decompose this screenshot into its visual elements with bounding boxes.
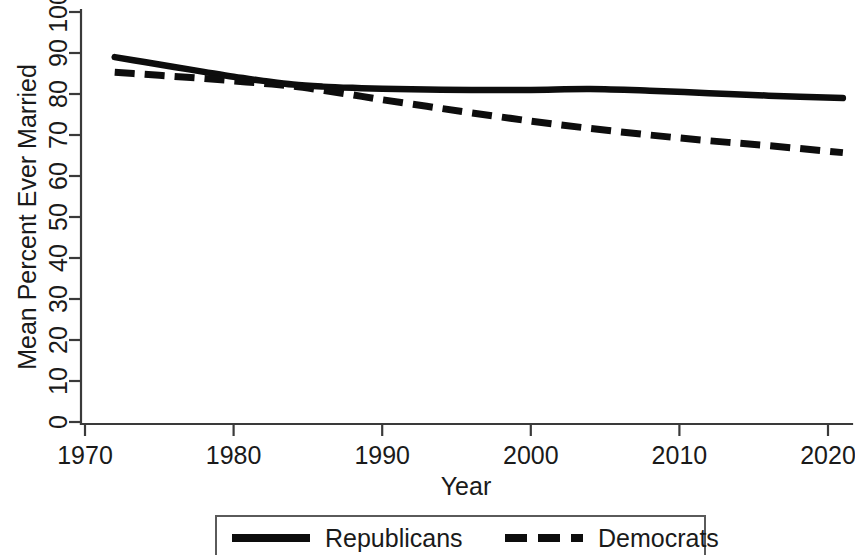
chart-figure: 0102030405060708090100 19701980199020002… <box>0 0 855 555</box>
chart-legend: Republicans Democrats <box>216 516 719 555</box>
y-tick-label: 100 <box>44 0 72 33</box>
y-axis-title: Mean Percent Ever Married <box>13 64 41 370</box>
x-tick-label: 1970 <box>57 441 113 469</box>
y-tick-label: 70 <box>44 121 72 149</box>
x-axis-tick-labels: 197019801990200020102020 <box>57 441 855 469</box>
x-tick-label: 1990 <box>354 441 410 469</box>
x-tick-label: 2010 <box>652 441 708 469</box>
y-tick-label: 20 <box>44 326 72 354</box>
x-axis-title: Year <box>441 472 492 500</box>
line-chart-canvas: 0102030405060708090100 19701980199020002… <box>0 0 855 555</box>
y-tick-label: 30 <box>44 285 72 313</box>
legend-label-democrats: Democrats <box>598 524 719 552</box>
x-tick-label: 2020 <box>800 441 855 469</box>
x-tick-label: 1980 <box>206 441 262 469</box>
x-axis-ticks <box>85 424 828 436</box>
y-tick-label: 80 <box>44 80 72 108</box>
y-axis-tick-labels: 0102030405060708090100 <box>44 0 72 429</box>
legend-label-republicans: Republicans <box>325 524 463 552</box>
y-tick-label: 90 <box>44 39 72 67</box>
y-tick-label: 10 <box>44 367 72 395</box>
y-tick-label: 40 <box>44 244 72 272</box>
data-series-group <box>115 57 843 153</box>
series-line-democrats <box>115 72 843 152</box>
y-tick-label: 0 <box>44 415 72 429</box>
x-tick-label: 2000 <box>503 441 559 469</box>
y-tick-label: 50 <box>44 203 72 231</box>
y-tick-label: 60 <box>44 162 72 190</box>
